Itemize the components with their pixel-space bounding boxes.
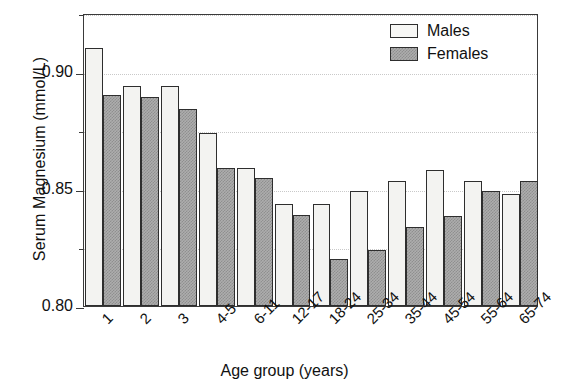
bar-females-6-11: [255, 178, 273, 306]
bar-females-55-64: [482, 191, 500, 306]
bar-males-55-64: [464, 181, 482, 306]
bar-males-3: [161, 86, 179, 306]
bar-males-2: [123, 86, 141, 306]
bar-females-12-17: [293, 215, 311, 306]
y-tick-major: [76, 191, 84, 192]
bar-females-4-5: [217, 168, 235, 306]
y-tick-major: [76, 74, 84, 75]
bar-males-45-54: [426, 170, 444, 306]
bar-females-2: [141, 97, 159, 306]
legend: Males Females: [390, 22, 520, 68]
males-swatch-icon: [390, 24, 418, 38]
bar-females-3: [179, 109, 197, 306]
x-axis-title: Age group (years): [0, 362, 569, 380]
x-tick-label: 3: [174, 309, 192, 327]
bar-females-1: [103, 95, 121, 306]
legend-label-females: Females: [427, 45, 488, 63]
bar-males-6-11: [237, 168, 255, 306]
legend-item-males: Males: [390, 22, 520, 40]
bar-males-35-44: [388, 181, 406, 306]
y-axis-title: Serum Magnesium (mmol/L): [31, 9, 49, 309]
x-tick-label: 2: [136, 309, 154, 327]
bar-chart: Serum Magnesium (mmol/L) 0.800.850.90 12…: [0, 0, 569, 392]
bar-males-1: [85, 48, 103, 306]
y-tick-label: 0.85: [21, 180, 73, 198]
bar-males-4-5: [199, 133, 217, 306]
y-tick-label: 0.80: [21, 297, 73, 315]
x-axis-tick-labels: 1234-56-1112-1718-2425-3435-4445-5455-64…: [83, 309, 538, 361]
bar-males-12-17: [275, 204, 293, 306]
x-tick-label: 1: [98, 309, 116, 327]
bar-females-65-74: [520, 181, 538, 306]
females-swatch-icon: [390, 47, 418, 61]
y-tick-label: 0.90: [21, 63, 73, 81]
bar-females-45-54: [444, 216, 462, 306]
legend-item-females: Females: [390, 45, 520, 63]
legend-label-males: Males: [427, 22, 470, 40]
